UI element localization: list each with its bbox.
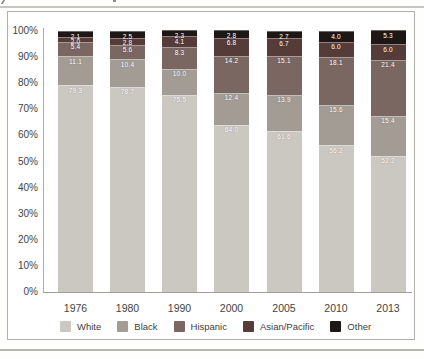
legend-swatch-black (117, 321, 128, 332)
bar-value-label: 18.1 (319, 59, 354, 66)
bar-value-label: 56.2 (319, 147, 354, 154)
y-axis-tick-label: 80% (8, 77, 38, 89)
bar-value-label: 6.0 (319, 43, 354, 50)
bar-value-label: 64.0 (214, 126, 249, 133)
bar-value-label: 4.1 (162, 38, 197, 45)
legend-swatch-asian-pacific (243, 321, 254, 332)
bar-value-label: 75.5 (162, 96, 197, 103)
legend: WhiteBlackHispanicAsian/PacificOther (60, 319, 371, 333)
y-axis-line (43, 28, 44, 293)
bar-value-label: 6.7 (267, 40, 302, 47)
y-axis-tick-label: 0% (8, 286, 38, 298)
y-axis-tick-label: 30% (8, 208, 38, 220)
legend-label-black: Black (134, 321, 157, 332)
bar-segment-white (319, 145, 354, 292)
bar-value-label: 5.6 (110, 46, 145, 53)
bar-value-label: 13.9 (267, 96, 302, 103)
y-axis-tick-label: 100% (8, 25, 38, 37)
bar-value-label: 2.3 (162, 32, 197, 39)
y-axis-tick-label: 50% (8, 156, 38, 168)
bar-value-label: 79.3 (58, 87, 93, 94)
bar-value-label: 2.1 (58, 33, 93, 40)
bottom-horizontal-rule (0, 349, 424, 351)
bar-value-label: 15.1 (267, 57, 302, 64)
legend-item-white: White (60, 321, 101, 332)
bar-value-label: 52.2 (371, 157, 406, 164)
bar-segment-white (214, 125, 249, 292)
cropped-text-fragment (113, 0, 116, 2)
bar-value-label: 10.4 (110, 61, 145, 68)
bar-segment-white (110, 87, 145, 292)
bar-segment-white (58, 85, 93, 292)
legend-label-white: White (77, 321, 101, 332)
bar-value-label: 61.6 (267, 133, 302, 140)
bar-value-label: 6.8 (214, 39, 249, 46)
bar-value-label: 8.3 (162, 49, 197, 56)
x-axis-category-label: 2013 (362, 302, 414, 314)
bar-value-label: 2.7 (267, 33, 302, 40)
y-axis-tick-label: 60% (8, 129, 38, 141)
bar-value-label: 11.1 (58, 58, 93, 65)
legend-item-black: Black (117, 321, 157, 332)
x-axis-category-label: 2005 (258, 302, 310, 314)
legend-label-other: Other (347, 321, 371, 332)
bar-value-label: 2.8 (214, 32, 249, 39)
legend-swatch-white (60, 321, 71, 332)
top-horizontal-rule (0, 6, 424, 8)
bar-value-label: 6.0 (371, 46, 406, 53)
bar-value-label: 15.4 (371, 117, 406, 124)
bar-segment-white (371, 156, 406, 292)
figure-box: WhiteBlackHispanicAsian/PacificOther 100… (7, 11, 415, 340)
legend-label-hispanic: Hispanic (191, 321, 227, 332)
legend-label-asian-pacific: Asian/Pacific (260, 321, 314, 332)
bar-value-label: 12.4 (214, 94, 249, 101)
bar-value-label: 10.0 (162, 70, 197, 77)
y-axis-tick-label: 70% (8, 103, 38, 115)
bar-value-label: 21.4 (371, 61, 406, 68)
legend-item-hispanic: Hispanic (174, 321, 227, 332)
bar-segment-white (267, 131, 302, 292)
bar-value-label: 14.2 (214, 57, 249, 64)
bar-value-label: 78.7 (110, 88, 145, 95)
x-axis-line (43, 292, 412, 293)
y-axis-tick-label: 90% (8, 51, 38, 63)
bar-value-label: 15.6 (319, 106, 354, 113)
legend-swatch-hispanic (174, 321, 185, 332)
screenshot-root: WhiteBlackHispanicAsian/PacificOther 100… (0, 0, 424, 359)
y-axis-tick-label: 10% (8, 260, 38, 272)
cropped-text-fragment (1, 0, 5, 4)
legend-swatch-other (330, 321, 341, 332)
bar-value-label: 2.5 (110, 33, 145, 40)
x-axis-category-label: 1976 (50, 302, 102, 314)
y-axis-tick-label: 40% (8, 182, 38, 194)
x-axis-category-label: 2000 (206, 302, 258, 314)
x-axis-category-label: 2010 (310, 302, 362, 314)
bar-value-label: 5.3 (371, 32, 406, 39)
y-axis-tick-label: 20% (8, 234, 38, 246)
bar-segment-white (162, 95, 197, 292)
legend-item-asian-pacific: Asian/Pacific (243, 321, 314, 332)
x-axis-category-label: 1980 (102, 302, 154, 314)
bar-value-label: 4.0 (319, 33, 354, 40)
x-axis-category-label: 1990 (154, 302, 206, 314)
bar-value-label: 2.8 (110, 39, 145, 46)
legend-item-other: Other (330, 321, 371, 332)
